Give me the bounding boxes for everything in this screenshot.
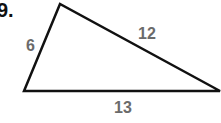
triangle: [24, 4, 220, 91]
side-label-left: 6: [26, 37, 35, 54]
side-label-top-right: 12: [138, 25, 156, 42]
triangle-diagram: 6 12 13: [0, 0, 221, 123]
side-label-bottom: 13: [114, 99, 132, 116]
